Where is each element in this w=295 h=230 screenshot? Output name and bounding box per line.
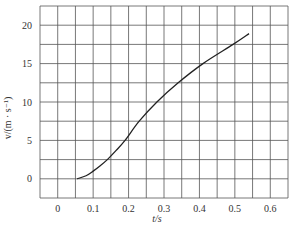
velocity-curve	[77, 34, 249, 179]
y-axis-label: v/(m · s⁻¹)	[2, 97, 14, 140]
plot-grid	[40, 6, 288, 198]
x-tick-label: 0.4	[193, 203, 206, 214]
y-tick-label: 0	[27, 173, 32, 184]
y-tick-label: 5	[27, 135, 32, 146]
x-tick-label: 0.1	[87, 203, 100, 214]
x-axis-label: t/s	[152, 213, 162, 224]
y-tick-label: 15	[22, 58, 32, 69]
velocity-time-chart: 00.10.20.30.40.50.6 05101520 t/s v/(m · …	[0, 0, 295, 230]
y-axis-ticks: 05101520	[22, 20, 32, 185]
x-tick-label: 0.2	[122, 203, 135, 214]
x-tick-label: 0.5	[229, 203, 242, 214]
y-tick-label: 10	[22, 97, 32, 108]
x-tick-label: 0.6	[264, 203, 277, 214]
x-tick-label: 0	[55, 203, 60, 214]
x-axis-ticks: 00.10.20.30.40.50.6	[55, 203, 276, 214]
y-tick-label: 20	[22, 20, 32, 31]
